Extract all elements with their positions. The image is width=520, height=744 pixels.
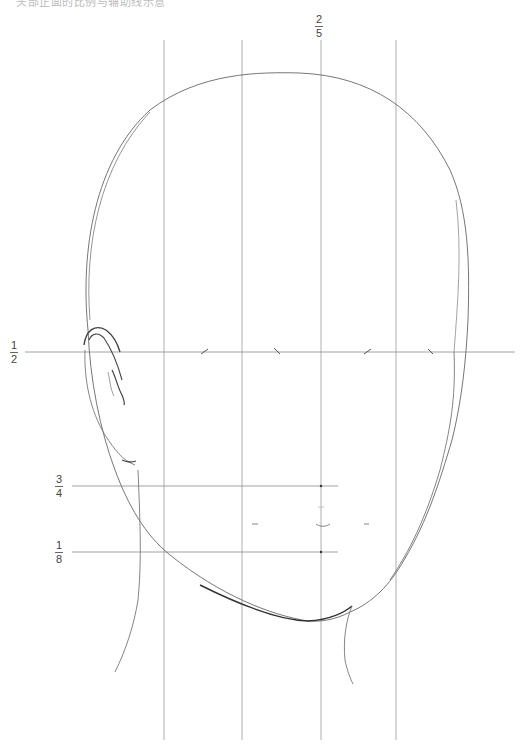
horizontal-guides	[25, 352, 515, 552]
fraction-label-mouth-line: 1 8	[55, 540, 63, 565]
vertical-guides	[164, 40, 396, 740]
numerator: 1	[11, 340, 17, 351]
numerator: 3	[56, 474, 62, 485]
neck	[115, 470, 353, 684]
denominator: 5	[316, 28, 322, 39]
head-outline	[86, 73, 469, 621]
denominator: 8	[56, 554, 62, 565]
fraction-label-top: 2 5	[315, 14, 323, 39]
head-proportion-diagram	[0, 0, 520, 744]
denominator: 2	[11, 354, 17, 365]
numerator: 2	[316, 14, 322, 25]
eye-marks	[201, 348, 433, 354]
mouth-marks	[252, 507, 369, 526]
ear	[84, 328, 136, 465]
fraction-label-nose-line: 3 4	[55, 474, 63, 499]
fraction-label-eye-line: 1 2	[10, 340, 18, 365]
numerator: 1	[56, 540, 62, 551]
denominator: 4	[56, 488, 62, 499]
